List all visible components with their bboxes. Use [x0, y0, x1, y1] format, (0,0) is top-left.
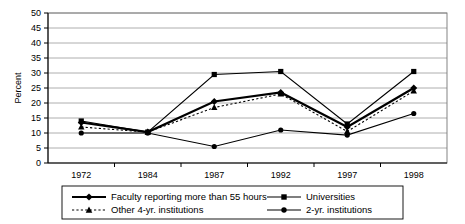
- x-tick-label: 1987: [204, 170, 224, 180]
- data-point: [411, 111, 416, 116]
- y-tick-label: 50: [31, 8, 41, 18]
- x-tick-label: 1972: [71, 170, 91, 180]
- y-tick-label: 0: [36, 158, 41, 168]
- data-point: [278, 69, 283, 74]
- data-point: [212, 72, 217, 77]
- data-point: [79, 118, 84, 123]
- gridlines: [48, 13, 447, 148]
- y-tick-label: 40: [31, 38, 41, 48]
- y-tick-label: 45: [31, 23, 41, 33]
- y-tick-label: 25: [31, 83, 41, 93]
- legend-marker: [281, 194, 286, 199]
- data-point: [211, 104, 217, 110]
- data-point: [79, 130, 84, 135]
- y-tick-label: 35: [31, 53, 41, 63]
- y-tick-label: 10: [31, 128, 41, 138]
- chart-container: Percent 05101520253035404550 19721984198…: [0, 0, 465, 224]
- legend-label: Other 4-yr. institutions: [111, 204, 204, 215]
- data-point: [278, 127, 283, 132]
- y-axis-title: Percent: [13, 72, 23, 104]
- data-series-layer: [78, 69, 418, 149]
- y-tick-label: 30: [31, 68, 41, 78]
- x-tick-label: 1998: [404, 170, 424, 180]
- legend-label: 2-yr. institutions: [306, 204, 372, 215]
- x-tick-label: 1997: [337, 170, 357, 180]
- y-axis-ticks: 05101520253035404550: [31, 8, 48, 168]
- series-line: [81, 72, 414, 133]
- y-tick-label: 15: [31, 113, 41, 123]
- data-point: [345, 133, 350, 138]
- x-tick-label: 1992: [271, 170, 291, 180]
- data-point: [78, 124, 84, 130]
- series-1: [78, 85, 418, 136]
- y-tick-label: 5: [36, 143, 41, 153]
- data-point: [212, 144, 217, 149]
- series-2: [79, 69, 417, 135]
- legend-label: Faculty reporting more than 55 hours: [111, 191, 267, 202]
- y-tick-label: 20: [31, 98, 41, 108]
- x-axis-ticks: 197219841987199219971998: [71, 163, 424, 180]
- data-point: [345, 121, 350, 126]
- data-point: [211, 98, 218, 105]
- legend-marker: [281, 207, 286, 212]
- x-tick-label: 1984: [138, 170, 158, 180]
- line-chart: Percent 05101520253035404550 19721984198…: [0, 0, 465, 224]
- series-line: [81, 88, 414, 132]
- data-point: [411, 69, 416, 74]
- series-3: [78, 88, 417, 135]
- legend-label: Universities: [306, 191, 355, 202]
- data-point: [145, 130, 150, 135]
